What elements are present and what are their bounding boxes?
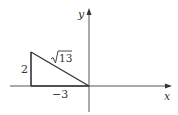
x-axis-arrow-icon bbox=[165, 84, 172, 89]
y-axis-label: y bbox=[77, 8, 85, 21]
hypotenuse-label: 13 bbox=[51, 51, 72, 64]
vertical-leg-label: 2 bbox=[21, 63, 28, 76]
diagram-canvas: y x 2 −3 13 bbox=[0, 0, 178, 115]
x-axis-label: x bbox=[164, 90, 171, 103]
horizontal-leg-label: −3 bbox=[52, 88, 68, 101]
hypotenuse-radicand: 13 bbox=[59, 52, 72, 64]
y-axis-arrow-icon bbox=[87, 8, 92, 15]
